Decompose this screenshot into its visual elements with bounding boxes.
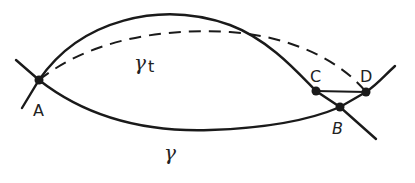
label-gamma-t: γ: [134, 51, 146, 75]
point-b: [336, 103, 345, 112]
point-a: [35, 76, 44, 85]
label-gamma: γ: [164, 141, 176, 165]
diagram-canvas: A B C D γ t γ: [0, 0, 415, 183]
label-c: C: [310, 67, 321, 86]
label-d: D: [360, 67, 372, 86]
upper-curve: [22, 14, 376, 139]
point-c: [312, 87, 321, 96]
label-a: A: [33, 101, 44, 120]
label-b: B: [332, 119, 343, 138]
segment-cd: [316, 91, 366, 92]
tangent-line-a: [16, 60, 39, 80]
label-gamma-t-subscript: t: [148, 57, 154, 76]
point-d: [362, 88, 371, 97]
